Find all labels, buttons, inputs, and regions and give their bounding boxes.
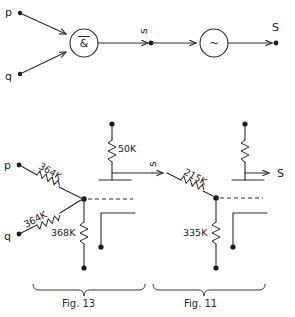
caption-fig-13: Fig. 13 <box>62 298 95 309</box>
resistor-364k-q-label-group: 364K <box>22 208 49 230</box>
bottom-terminal-right[interactable] <box>213 265 218 270</box>
wire-q-to-nand <box>22 52 66 73</box>
resistor-50k-label: 50K <box>118 143 137 154</box>
wire-node-s-to-215k <box>167 173 181 180</box>
bottom-input-q-terminal[interactable] <box>17 232 22 237</box>
bottom-input-q-label: q <box>4 230 11 243</box>
top-input-p-terminal[interactable] <box>18 11 22 15</box>
step-bracket-left <box>101 213 135 246</box>
brace-fig-11 <box>153 284 265 296</box>
top-node-s-label-group: s <box>137 28 150 34</box>
resistor-supply-right-symbol <box>241 140 249 162</box>
top-output-S-label: S <box>272 21 279 34</box>
bottom-terminal-left[interactable] <box>81 265 86 270</box>
step-bracket-terminal-right[interactable] <box>230 244 235 249</box>
brace-fig-13 <box>33 284 145 296</box>
bottom-input-p-terminal[interactable] <box>17 163 22 168</box>
wire-p-lead <box>21 166 37 175</box>
bottom-node-s-label: s <box>146 161 159 167</box>
top-node-s-label: s <box>137 28 150 34</box>
resistor-335k-symbol <box>212 222 220 244</box>
top-circuit-group: p q & s ~ S <box>5 6 279 83</box>
top-input-q-terminal[interactable] <box>18 72 22 76</box>
caption-group: Fig. 13 Fig. 11 <box>33 284 265 309</box>
step-bracket-terminal-left[interactable] <box>98 244 103 249</box>
resistor-364k-q-label: 364K <box>22 208 49 230</box>
resistor-368k-label: 368K <box>51 227 76 238</box>
resistor-50k-symbol <box>108 140 116 162</box>
bottom-right-circuit-group: S 215K 335K <box>167 121 284 270</box>
bottom-output-S-label: S <box>277 167 284 180</box>
top-output-terminal[interactable] <box>274 41 279 46</box>
bottom-node-s-label-group: s <box>146 161 159 167</box>
resistor-368k-symbol <box>80 222 88 244</box>
schematic-canvas: p q & s ~ S <box>0 0 295 317</box>
bottom-input-p-label: p <box>4 159 11 172</box>
nand-gate-symbol: & <box>80 37 89 50</box>
resistor-335k-label: 335K <box>183 227 208 238</box>
top-input-p-label: p <box>5 6 12 19</box>
bottom-left-circuit-group: 50K s p 364K q 364K <box>4 121 163 270</box>
caption-fig-11: Fig. 11 <box>184 298 217 309</box>
resistor-215k-label: 215K <box>182 166 209 188</box>
schematic-figure: p q & s ~ S <box>0 0 295 317</box>
wire-364k-q-to-junction <box>60 200 81 213</box>
resistor-215k-label-group: 215K <box>182 166 209 188</box>
top-input-q-label: q <box>5 70 12 83</box>
step-bracket-right <box>233 213 267 246</box>
wire-p-to-nand <box>22 14 66 34</box>
inverter-gate-symbol: ~ <box>209 37 218 50</box>
wire-364k-p-to-junction <box>59 187 81 198</box>
wire-215k-to-junction <box>203 191 213 196</box>
